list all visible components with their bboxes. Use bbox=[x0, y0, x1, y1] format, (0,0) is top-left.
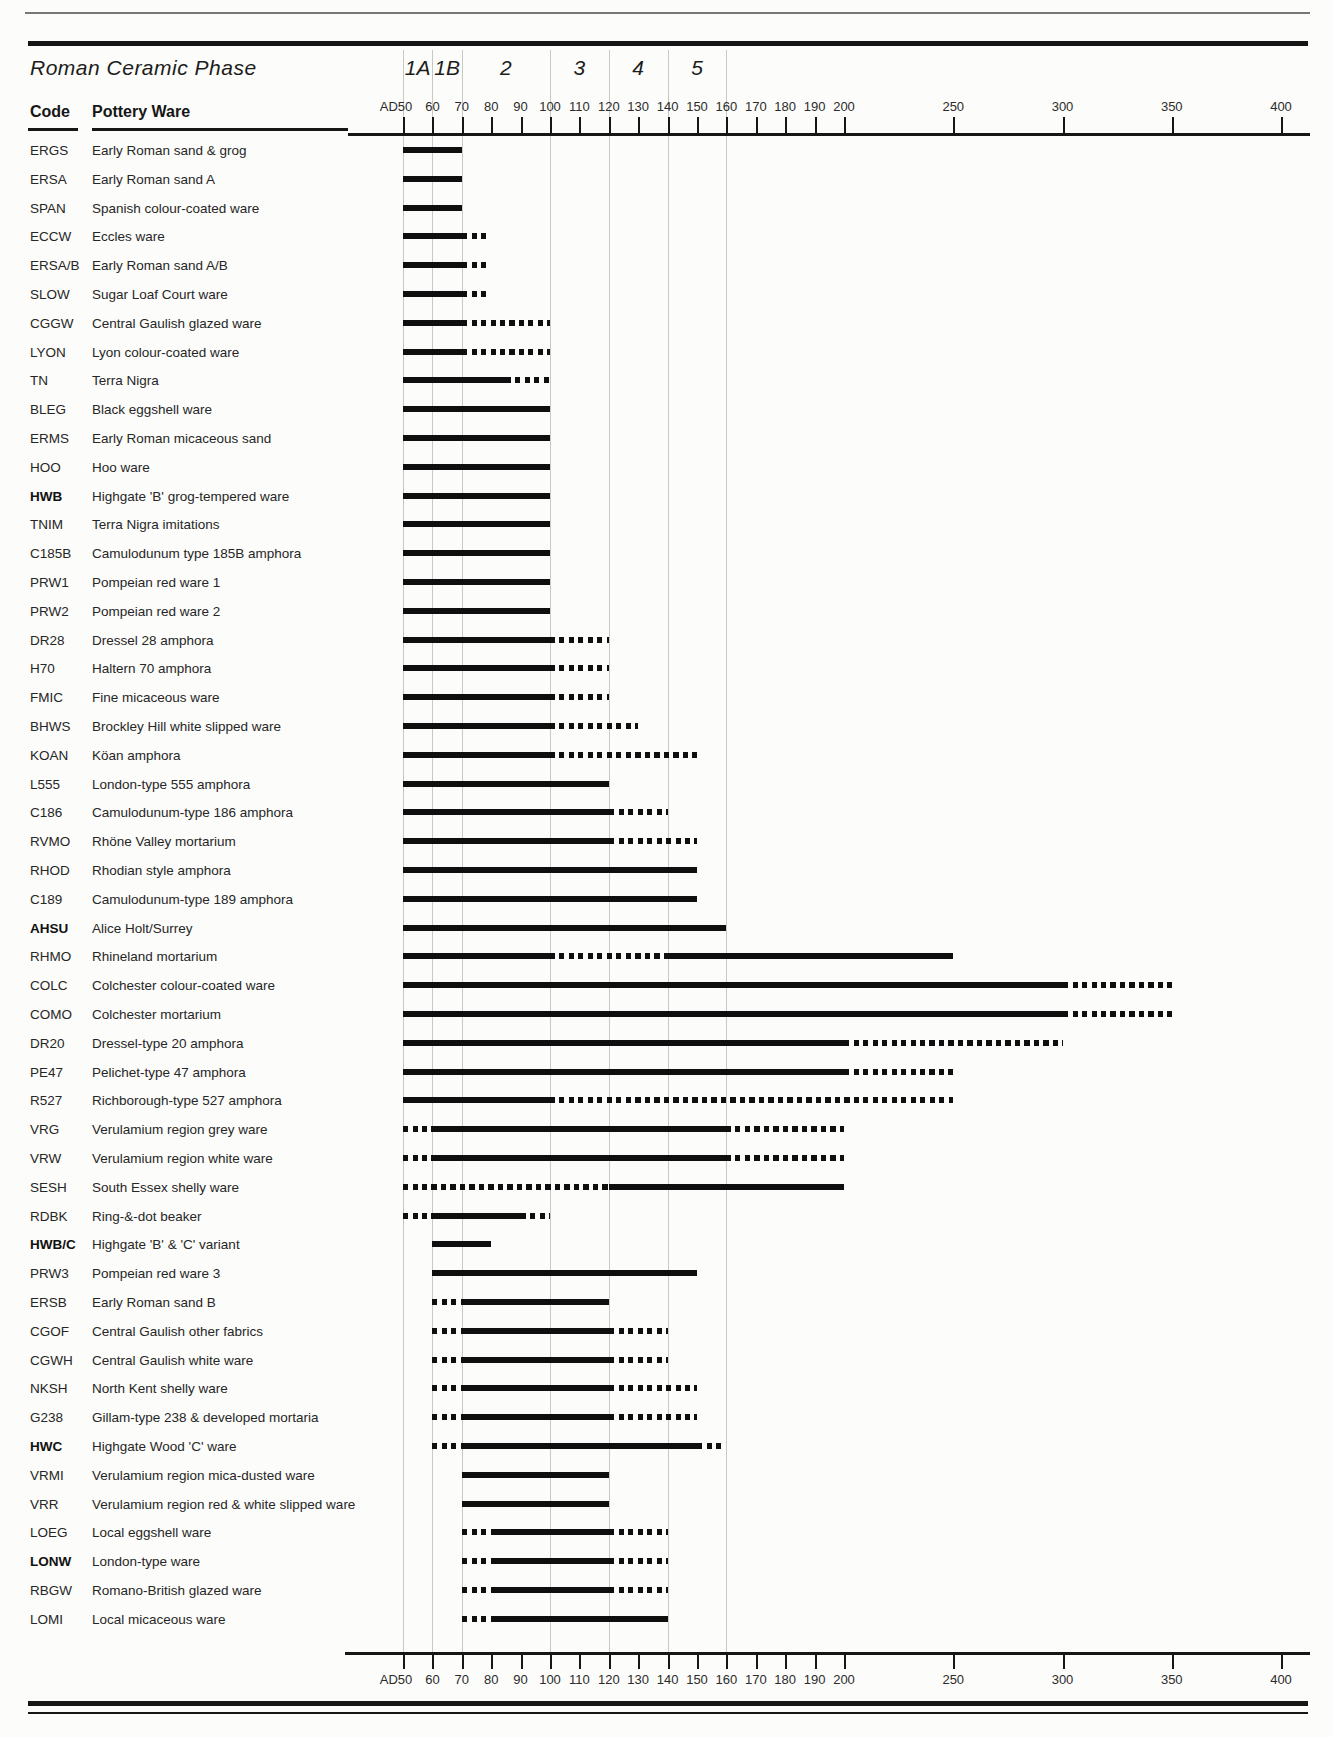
axis-tick-250 bbox=[953, 117, 955, 133]
bar-segment-dotted bbox=[462, 233, 491, 239]
bar-segment-solid bbox=[462, 1328, 609, 1334]
bar-segment-solid bbox=[403, 205, 462, 211]
bar-segment-solid bbox=[403, 665, 550, 671]
row-ware: Rhineland mortarium bbox=[92, 949, 217, 964]
bar-segment-dotted bbox=[609, 809, 668, 815]
row-code: PRW1 bbox=[30, 575, 69, 590]
code-column-header: Code bbox=[30, 103, 70, 121]
bar-segment-solid bbox=[403, 1011, 1063, 1017]
bar-segment-solid bbox=[403, 291, 462, 297]
axis-tick-90 bbox=[521, 1654, 523, 1669]
row-ware: Sugar Loaf Court ware bbox=[92, 287, 228, 302]
axis-tick-150 bbox=[697, 1654, 699, 1669]
row-code: KOAN bbox=[30, 748, 68, 763]
bar-segment-dotted bbox=[609, 1385, 697, 1391]
bottom-rule-thin bbox=[28, 1712, 1308, 1714]
bar-segment-dotted bbox=[726, 1126, 844, 1132]
row-ware: Verulamium region red & white slipped wa… bbox=[92, 1497, 355, 1512]
bar-segment-solid bbox=[491, 1616, 667, 1622]
row-code: SLOW bbox=[30, 287, 70, 302]
axis-tick-190 bbox=[815, 117, 817, 133]
row-ware: Central Gaulish other fabrics bbox=[92, 1324, 263, 1339]
bar-segment-solid bbox=[462, 1501, 609, 1507]
row-code: AHSU bbox=[30, 921, 68, 936]
bar-segment-dotted bbox=[844, 1040, 1063, 1046]
bar-segment-solid bbox=[491, 1529, 609, 1535]
bar-segment-solid bbox=[403, 838, 609, 844]
axis-tick-label-190: 190 bbox=[804, 99, 826, 114]
axis-tick-350 bbox=[1172, 1654, 1174, 1669]
bar-segment-solid bbox=[403, 809, 609, 815]
code-header-underline bbox=[28, 128, 78, 131]
row-code: BLEG bbox=[30, 402, 66, 417]
row-ware: Early Roman micaceous sand bbox=[92, 431, 271, 446]
bar-segment-solid bbox=[462, 1414, 609, 1420]
axis-tick-400 bbox=[1281, 117, 1283, 133]
bar-segment-solid bbox=[403, 781, 609, 787]
axis-tick-100 bbox=[550, 117, 552, 133]
bar-segment-dotted bbox=[506, 377, 550, 383]
row-ware: Camulodunum type 185B amphora bbox=[92, 546, 301, 561]
row-code: ERMS bbox=[30, 431, 69, 446]
axis-tick-140 bbox=[668, 1654, 670, 1669]
bar-segment-dotted bbox=[432, 1299, 461, 1305]
row-code: LYON bbox=[30, 345, 66, 360]
row-ware: Dressel-type 20 amphora bbox=[92, 1036, 244, 1051]
row-code: H70 bbox=[30, 661, 55, 676]
axis-tick-120 bbox=[609, 1654, 611, 1669]
row-ware: Hoo ware bbox=[92, 460, 150, 475]
row-code: C185B bbox=[30, 546, 71, 561]
row-code: PRW2 bbox=[30, 604, 69, 619]
row-code: RHOD bbox=[30, 863, 70, 878]
bar-segment-solid bbox=[403, 953, 550, 959]
row-code: CGOF bbox=[30, 1324, 69, 1339]
row-ware: Colchester colour-coated ware bbox=[92, 978, 275, 993]
axis-tick-70 bbox=[462, 117, 464, 133]
axis-tick-label-70: 70 bbox=[455, 1672, 469, 1687]
row-ware: Romano-British glazed ware bbox=[92, 1583, 262, 1598]
axis-tick-160 bbox=[726, 1654, 728, 1669]
row-ware: Terra Nigra bbox=[92, 373, 159, 388]
row-code: VRW bbox=[30, 1151, 61, 1166]
axis-tick-label-120: 120 bbox=[598, 1672, 620, 1687]
bar-segment-dotted bbox=[726, 1155, 844, 1161]
phase-label-5: 5 bbox=[691, 56, 703, 80]
axis-tick-110 bbox=[579, 1654, 581, 1669]
phase-label-2: 2 bbox=[500, 56, 512, 80]
axis-tick-80 bbox=[491, 117, 493, 133]
axis-tick-label-200: 200 bbox=[833, 1672, 855, 1687]
bar-segment-dotted bbox=[462, 291, 491, 297]
phase-label-1B: 1B bbox=[434, 56, 460, 80]
axis-tick-300 bbox=[1063, 1654, 1065, 1669]
bar-segment-dotted bbox=[1063, 982, 1172, 988]
bar-segment-dotted bbox=[462, 1616, 491, 1622]
row-ware: Brockley Hill white slipped ware bbox=[92, 719, 281, 734]
axis-tick-label-100: 100 bbox=[539, 99, 561, 114]
bar-segment-dotted bbox=[403, 1184, 609, 1190]
axis-tick-label-70: 70 bbox=[455, 99, 469, 114]
row-ware: Haltern 70 amphora bbox=[92, 661, 211, 676]
row-code: PRW3 bbox=[30, 1266, 69, 1281]
row-code: HOO bbox=[30, 460, 61, 475]
axis-tick-170 bbox=[756, 117, 758, 133]
axis-tick-label-130: 130 bbox=[627, 1672, 649, 1687]
row-code: HWB bbox=[30, 489, 62, 504]
bar-segment-solid bbox=[432, 1126, 726, 1132]
row-code: ERSB bbox=[30, 1295, 67, 1310]
row-ware: Spanish colour-coated ware bbox=[92, 201, 259, 216]
axis-tick-label-180: 180 bbox=[774, 99, 796, 114]
axis-tick-label-250: 250 bbox=[942, 1672, 964, 1687]
bar-segment-dotted bbox=[432, 1414, 461, 1420]
axis-tick-label-90: 90 bbox=[513, 99, 527, 114]
bar-segment-solid bbox=[403, 1097, 550, 1103]
bar-segment-solid bbox=[432, 1213, 520, 1219]
bar-segment-dotted bbox=[609, 1558, 668, 1564]
bar-segment-solid bbox=[403, 694, 550, 700]
axis-tick-label-300: 300 bbox=[1052, 99, 1074, 114]
axis-tick-180 bbox=[785, 1654, 787, 1669]
axis-tick-label-350: 350 bbox=[1161, 99, 1183, 114]
bar-segment-dotted bbox=[462, 320, 550, 326]
row-ware: Köan amphora bbox=[92, 748, 181, 763]
bar-segment-solid bbox=[403, 723, 550, 729]
row-code: G238 bbox=[30, 1410, 63, 1425]
